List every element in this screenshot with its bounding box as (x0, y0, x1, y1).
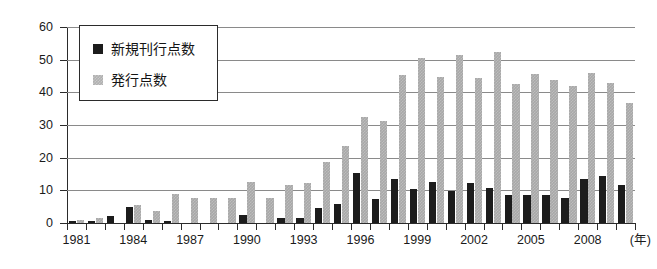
bar-new-1992 (277, 218, 284, 223)
bar-group-2004 (502, 27, 521, 223)
bar-group-2006 (540, 27, 559, 223)
x-tick-mark-22 (484, 223, 485, 230)
x-tick-mark-24 (521, 223, 522, 230)
bar-total-2010 (626, 103, 633, 223)
x-tick-mark-13 (313, 223, 314, 230)
bar-new-2003 (486, 188, 493, 223)
bar-group-2009 (597, 27, 616, 223)
bar-total-2003 (494, 52, 501, 224)
x-tick-mark-2 (105, 223, 106, 230)
bar-total-2000 (437, 77, 444, 223)
x-tick-label-2008: 2008 (574, 234, 602, 247)
y-tick-mark-40 (60, 92, 67, 93)
bar-total-1990 (247, 182, 254, 223)
bar-group-1995 (332, 27, 351, 223)
bar-new-2008 (580, 179, 587, 223)
x-tick-mark-29 (616, 223, 617, 230)
legend-item-new: 新規刊行点数 (93, 35, 217, 63)
x-tick-mark-17 (389, 223, 390, 230)
bar-group-1992 (275, 27, 294, 223)
x-tick-mark-26 (559, 223, 560, 230)
bar-group-1991 (256, 27, 275, 223)
y-tick-label-50: 50 (21, 53, 53, 66)
y-tick-mark-10 (60, 190, 67, 191)
y-tick-label-10: 10 (21, 184, 53, 197)
bar-group-1989 (218, 27, 237, 223)
x-tick-mark-9 (237, 223, 238, 230)
bar-total-1988 (210, 198, 217, 223)
bar-group-1998 (389, 27, 408, 223)
x-tick-mark-12 (294, 223, 295, 230)
bar-new-2004 (505, 195, 512, 223)
bar-group-1994 (313, 27, 332, 223)
x-tick-mark-18 (408, 223, 409, 230)
x-tick-label-1990: 1990 (233, 234, 261, 247)
bar-group-2007 (559, 27, 578, 223)
bar-total-1987 (191, 198, 198, 223)
x-axis-unit-label: (年) (630, 234, 651, 247)
x-tick-label-1993: 1993 (290, 234, 318, 247)
x-tick-mark-20 (446, 223, 447, 230)
x-tick-mark-10 (256, 223, 257, 230)
bar-total-2002 (475, 78, 482, 223)
y-tick-label-60: 60 (21, 21, 53, 34)
x-tick-label-2005: 2005 (517, 234, 545, 247)
bar-new-2001 (448, 191, 455, 223)
legend-swatch-gray-square-icon (93, 75, 103, 85)
bar-group-1993 (294, 27, 313, 223)
bar-group-2008 (578, 27, 597, 223)
bar-new-1986 (164, 221, 171, 223)
y-tick-mark-0 (60, 223, 67, 224)
x-tick-mark-16 (370, 223, 371, 230)
bar-total-1986 (172, 194, 179, 223)
bar-total-1999 (418, 58, 425, 223)
x-tick-label-1987: 1987 (176, 234, 204, 247)
x-tick-mark-25 (540, 223, 541, 230)
x-tick-label-1984: 1984 (119, 234, 147, 247)
bar-total-2001 (456, 55, 463, 223)
bar-new-1993 (296, 218, 303, 223)
x-tick-mark-14 (332, 223, 333, 230)
x-tick-mark-27 (578, 223, 579, 230)
bar-total-1991 (266, 198, 273, 223)
x-tick-label-1981: 1981 (63, 234, 91, 247)
x-tick-mark-15 (351, 223, 352, 230)
y-tick-mark-60 (60, 27, 67, 28)
bar-total-1984 (134, 205, 141, 223)
bar-new-1995 (334, 204, 341, 223)
bar-new-1998 (391, 179, 398, 223)
legend-swatch-black-square-icon (93, 44, 103, 54)
bar-total-2005 (531, 74, 538, 223)
x-tick-mark-28 (597, 223, 598, 230)
x-tick-label-1996: 1996 (347, 234, 375, 247)
bar-total-1993 (304, 183, 311, 224)
y-tick-label-30: 30 (21, 119, 53, 132)
bar-group-2003 (484, 27, 503, 223)
bar-group-1999 (408, 27, 427, 223)
x-tick-mark-6 (181, 223, 182, 230)
bar-new-2002 (467, 183, 474, 224)
bar-total-1996 (361, 117, 368, 223)
x-tick-mark-21 (465, 223, 466, 230)
x-tick-mark-3 (124, 223, 125, 230)
legend-label-total: 発行点数 (111, 73, 167, 87)
bar-total-2004 (512, 84, 519, 223)
bar-total-2009 (607, 83, 614, 223)
x-tick-mark-8 (218, 223, 219, 230)
bar-new-2000 (429, 182, 436, 223)
x-tick-mark-19 (427, 223, 428, 230)
y-tick-mark-20 (60, 158, 67, 159)
bar-new-2005 (523, 195, 530, 223)
bar-new-1996 (353, 173, 360, 223)
y-tick-label-40: 40 (21, 86, 53, 99)
x-tick-mark-11 (275, 223, 276, 230)
x-tick-mark-0 (67, 223, 68, 230)
legend-label-new: 新規刊行点数 (111, 42, 195, 56)
x-tick-label-2002: 2002 (460, 234, 488, 247)
bar-total-1982 (96, 218, 103, 223)
bar-chart: 1981198419871990199319961999200220052008… (0, 0, 657, 269)
legend: 新規刊行点数 発行点数 (79, 25, 218, 101)
bar-group-2001 (446, 27, 465, 223)
bar-group-1996 (351, 27, 370, 223)
x-tick-mark-23 (502, 223, 503, 230)
